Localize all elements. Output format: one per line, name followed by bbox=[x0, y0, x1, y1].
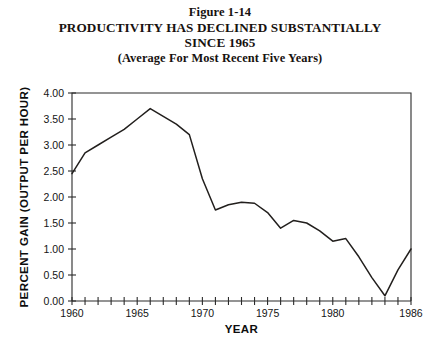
x-tick-label: 1975 bbox=[256, 307, 280, 319]
y-tick-label: 4.00 bbox=[44, 87, 65, 99]
y-tick-label: 3.50 bbox=[44, 113, 65, 125]
chart-container: 0.000.501.001.502.002.503.003.504.00 196… bbox=[0, 0, 440, 349]
y-tick-label: 2.00 bbox=[44, 191, 65, 203]
x-tick-label: 1965 bbox=[126, 307, 150, 319]
data-series-line bbox=[72, 109, 411, 296]
y-tick-label: 1.50 bbox=[44, 217, 65, 229]
plot-frame bbox=[72, 93, 411, 301]
y-tick-label: 2.50 bbox=[44, 165, 65, 177]
x-axis-tick-labels: 196019651970197519801986 bbox=[60, 307, 423, 319]
x-tick-label: 1986 bbox=[399, 307, 423, 319]
x-tick-label: 1970 bbox=[191, 307, 215, 319]
x-tick-label: 1980 bbox=[321, 307, 345, 319]
y-tick-label: 1.00 bbox=[44, 243, 65, 255]
x-tick-label: 1960 bbox=[60, 307, 84, 319]
y-axis-title: PERCENT GAIN (OUTPUT PER HOUR) bbox=[18, 87, 30, 308]
x-axis-title: YEAR bbox=[225, 323, 259, 335]
y-tick-label: 0.50 bbox=[44, 269, 65, 281]
y-tick-label: 0.00 bbox=[44, 295, 65, 307]
y-tick-label: 3.00 bbox=[44, 139, 65, 151]
y-axis-tick-labels: 0.000.501.001.502.002.503.003.504.00 bbox=[44, 87, 65, 307]
productivity-line-chart: 0.000.501.001.502.002.503.003.504.00 196… bbox=[0, 0, 440, 349]
